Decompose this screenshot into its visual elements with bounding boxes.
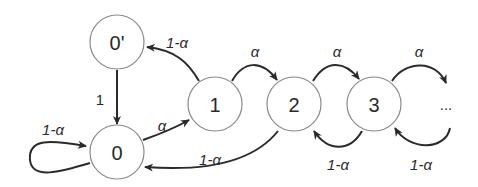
node-label: 1 [209, 94, 220, 116]
edge-label-2-3: α [333, 43, 342, 60]
edge-1-to-0p [147, 47, 199, 81]
state-diagram: 0' 0 1 2 3 ... 1-α 1 α 1-α α 1-α α 1-α α… [0, 0, 478, 187]
node-1: 1 [188, 77, 242, 131]
edge-label-next-3: 1-α [410, 156, 432, 173]
edge-label-2-0: 1-α [199, 151, 221, 168]
node-0: 0 [90, 125, 144, 179]
node-3: 3 [347, 77, 401, 131]
edge-label-0-1: α [158, 117, 167, 134]
edge-2-to-3 [313, 65, 359, 81]
ellipsis: ... [440, 96, 453, 113]
node-label: 0 [111, 142, 122, 164]
node-label: 3 [368, 94, 379, 116]
edge-label-1-0p: 1-α [166, 34, 188, 51]
edge-label-1-2: α [251, 43, 260, 60]
edge-label-3-next: α [415, 43, 424, 60]
edge-3-to-next [392, 65, 446, 83]
edge-1-to-2 [232, 65, 277, 81]
edge-3-to-2 [314, 131, 362, 147]
node-2: 2 [267, 77, 321, 131]
edge-label-3-2: 1-α [327, 156, 349, 173]
edge-next-to-3 [395, 128, 450, 145]
node-label: 0' [110, 32, 125, 54]
node-label: 2 [288, 94, 299, 116]
edge-label-0-self: 1-α [42, 121, 64, 138]
edge-0-self-loop [30, 142, 90, 172]
node-0-prime: 0' [90, 15, 144, 69]
edge-label-0p-0: 1 [96, 91, 104, 108]
